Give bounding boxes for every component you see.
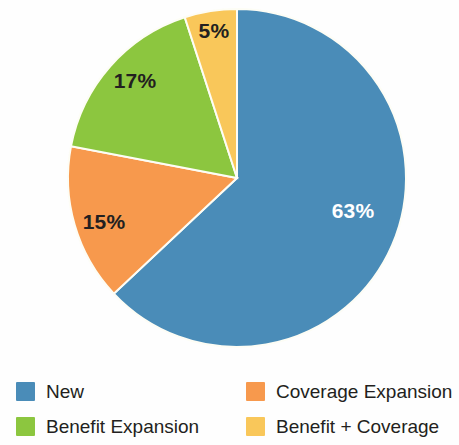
legend-swatch-benefit-plus-coverage <box>246 417 265 436</box>
pie-plot-area: 63%15%17%5% <box>0 0 459 370</box>
legend-label-coverage-expansion: Coverage Expansion <box>276 382 452 401</box>
legend-label-benefit-plus-coverage: Benefit + Coverage <box>276 417 439 436</box>
legend-item-benefit-expansion[interactable]: Benefit Expansion <box>0 417 240 436</box>
legend-label-benefit-expansion: Benefit Expansion <box>46 417 199 436</box>
legend-swatch-coverage-expansion <box>246 382 265 401</box>
legend-label-new: New <box>46 382 84 401</box>
pie-slice-group <box>68 9 406 347</box>
legend-item-coverage-expansion[interactable]: Coverage Expansion <box>240 382 459 401</box>
pie-chart-figure: 63%15%17%5% New Coverage Expansion Benef… <box>0 0 459 445</box>
legend-item-benefit-plus-coverage[interactable]: Benefit + Coverage <box>240 417 459 436</box>
pie-svg <box>0 0 459 370</box>
legend-swatch-benefit-expansion <box>16 417 35 436</box>
legend: New Coverage Expansion Benefit Expansion… <box>0 374 459 445</box>
legend-swatch-new <box>16 382 35 401</box>
legend-item-new[interactable]: New <box>0 382 240 401</box>
